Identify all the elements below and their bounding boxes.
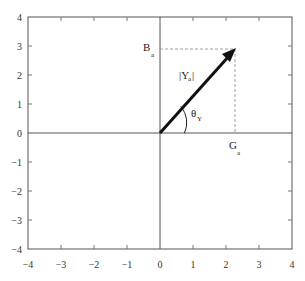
- x-tick-label: 4: [290, 259, 295, 270]
- svg-text:Y: Y: [197, 115, 202, 123]
- y-tick-label: −4: [11, 244, 22, 255]
- y-tick-label: 1: [17, 99, 22, 110]
- svg-text:θ: θ: [191, 107, 196, 119]
- y-tick-label: 2: [17, 70, 22, 81]
- x-tick-label: −1: [122, 259, 133, 270]
- x-tick-label: 0: [158, 259, 163, 270]
- admittance-vector: [160, 56, 229, 133]
- y-tick-labels: 4 3 2 1 0 −1 −2 −3 −4: [11, 12, 22, 255]
- svg-text:B: B: [143, 41, 150, 53]
- y-tick-label: −2: [11, 186, 22, 197]
- x-tick-label: 2: [224, 259, 229, 270]
- x-tick-label: 1: [191, 259, 196, 270]
- x-tick-label: −3: [56, 259, 67, 270]
- x-tick-label: −4: [23, 259, 34, 270]
- svg-text:a: a: [237, 149, 241, 157]
- phasor-diagram: 4 3 2 1 0 −1 −2 −3 −4 −4 −3 −2 −1 0 1 2 …: [0, 0, 305, 281]
- y-tick-label: 4: [17, 12, 22, 23]
- y-tick-label: 3: [17, 41, 22, 52]
- y-tick-label: 0: [17, 128, 22, 139]
- y-tick-label: −3: [11, 215, 22, 226]
- x-tick-label: 3: [257, 259, 262, 270]
- svg-text:G: G: [229, 139, 237, 151]
- x-tick-label: −2: [89, 259, 100, 270]
- imag-component-label: B a: [143, 41, 155, 59]
- x-tick-labels: −4 −3 −2 −1 0 1 2 3 4: [23, 259, 295, 270]
- magnitude-label: |Y a |: [179, 69, 194, 83]
- real-component-label: G a: [229, 139, 241, 157]
- y-tick-label: −1: [11, 157, 22, 168]
- svg-text:|: |: [192, 69, 194, 81]
- svg-text:a: a: [151, 51, 155, 59]
- angle-label: θ Y: [191, 107, 202, 123]
